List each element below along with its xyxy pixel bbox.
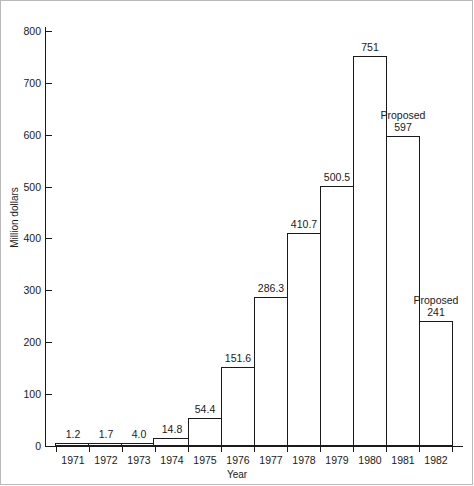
bar-1979[interactable] (320, 186, 354, 446)
y-tick-mark-700 (45, 83, 52, 84)
y-axis-title: Million dollars (9, 158, 20, 278)
bar-1981[interactable] (386, 136, 420, 446)
x-tick-mark-11 (419, 446, 420, 452)
y-axis-ticks: 800 700 600 500 400 300 200 100 0 (0, 0, 41, 486)
x-tick-mark-7 (287, 446, 288, 452)
x-tick-mark-2 (122, 446, 123, 452)
y-axis-line (45, 27, 46, 446)
x-tick-mark-5 (221, 446, 222, 452)
bar-note-1982: Proposed (404, 295, 468, 306)
bar-1975[interactable] (188, 418, 222, 446)
x-tick-mark-10 (386, 446, 387, 452)
x-tick-mark-4 (188, 446, 189, 452)
y-tick-mark-100 (45, 394, 52, 395)
x-tick-mark-3 (155, 446, 156, 452)
bar-value-1981: 597 (379, 122, 427, 133)
y-tick-label-100: 100 (5, 389, 41, 399)
bar-value-1980: 751 (346, 42, 394, 53)
y-tick-mark-800 (45, 31, 52, 32)
y-tick-mark-200 (45, 342, 52, 343)
y-tick-label-700: 700 (5, 78, 41, 88)
x-tick-mark-6 (254, 446, 255, 452)
bar-value-1982: 241 (412, 307, 460, 318)
bar-1978[interactable] (287, 233, 321, 446)
x-tick-mark-0 (56, 446, 57, 452)
y-tick-mark-500 (45, 187, 52, 188)
bar-1976[interactable] (221, 367, 255, 446)
bar-chart-figure: 800 700 600 500 400 300 200 100 0 Millio… (0, 0, 474, 486)
bar-1982[interactable] (419, 321, 453, 446)
bar-1972[interactable] (88, 443, 123, 446)
y-tick-label-300: 300 (5, 285, 41, 295)
x-tick-label-1982: 1982 (414, 455, 458, 466)
bar-1974[interactable] (153, 438, 191, 446)
y-tick-mark-400 (45, 238, 52, 239)
y-tick-mark-600 (45, 135, 52, 136)
y-tick-mark-300 (45, 290, 52, 291)
bar-1977[interactable] (254, 297, 288, 446)
y-tick-label-600: 600 (5, 130, 41, 140)
bar-1973[interactable] (121, 443, 156, 446)
y-tick-label-0: 0 (5, 441, 41, 451)
y-tick-label-200: 200 (5, 337, 41, 347)
x-tick-mark-8 (320, 446, 321, 452)
x-tick-mark-1 (89, 446, 90, 452)
bar-note-1981: Proposed (371, 110, 435, 121)
x-tick-mark-9 (353, 446, 354, 452)
x-tick-mark-12 (452, 446, 453, 452)
x-axis-title: Year (0, 469, 474, 480)
y-tick-label-800: 800 (5, 26, 41, 36)
bar-1971[interactable] (55, 443, 90, 446)
